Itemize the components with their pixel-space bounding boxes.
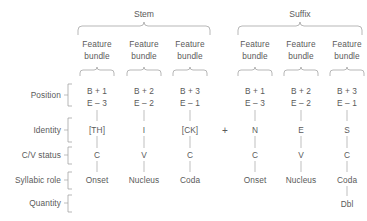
syllabic-role-cell-2: Nucleus [129, 175, 160, 186]
cv-status-cell-1: C [94, 150, 100, 161]
quantity-cell-6: Dbl [341, 199, 354, 210]
identity-cell-1: [TH] [89, 125, 105, 136]
row-label-identity: Identity [33, 125, 61, 135]
feature-bundle-line1: Feature [240, 39, 269, 51]
syllabic-role-cell-6: Coda [337, 175, 357, 186]
bundle-bracket-4 [238, 67, 272, 76]
feature-bundle-header-6: Feature bundle [332, 39, 361, 62]
feature-bundle-header-2: Feature bundle [129, 39, 158, 62]
position-line1: B + 2 [134, 86, 154, 98]
group-label-stem: Stem [134, 9, 154, 19]
rowbracket-syllabic-role [68, 172, 72, 189]
feature-bundle-line2: bundle [332, 51, 361, 63]
feature-bundle-line2: bundle [286, 51, 315, 63]
row-label-position: Position [31, 90, 61, 100]
position-cell-1: B + 1 E – 3 [87, 86, 107, 109]
position-line2: E – 1 [337, 98, 357, 110]
suffix-group-bracket [238, 22, 362, 35]
feature-bundle-line2: bundle [175, 51, 204, 63]
feature-bundle-header-5: Feature bundle [286, 39, 315, 62]
syllabic-role-cell-3: Coda [180, 175, 200, 186]
cv-status-cell-4: C [252, 150, 258, 161]
feature-bundle-line1: Feature [286, 39, 315, 51]
bundle-bracket-1 [80, 67, 114, 76]
rowbracket-position [68, 84, 72, 106]
identity-cell-2: I [143, 125, 145, 136]
feature-bundle-line1: Feature [82, 39, 111, 51]
connector-lines-layer [0, 0, 367, 221]
feature-bundle-line2: bundle [82, 51, 111, 63]
rowbracket-identity [68, 118, 72, 142]
identity-cell-5: E [298, 125, 304, 136]
position-line1: B + 3 [337, 86, 357, 98]
position-line2: E – 2 [134, 98, 154, 110]
feature-bundle-line1: Feature [175, 39, 204, 51]
row-label-quantity: Quantity [29, 198, 61, 208]
cv-status-cell-3: C [187, 150, 193, 161]
position-line1: B + 2 [291, 86, 311, 98]
cv-status-cell-2: V [141, 150, 147, 161]
bundle-bracket-3 [173, 67, 207, 76]
identity-cell-3: [CK] [182, 125, 199, 136]
row-label-cv-status: C/V status [22, 150, 61, 160]
feature-bundle-header-4: Feature bundle [240, 39, 269, 62]
position-line1: B + 1 [87, 86, 107, 98]
syllabic-role-cell-1: Onset [86, 175, 109, 186]
feature-bundle-header-3: Feature bundle [175, 39, 204, 62]
position-cell-5: B + 2 E – 2 [291, 86, 311, 109]
row-label-syllabic-role: Syllabic role [15, 175, 61, 185]
group-label-suffix: Suffix [289, 9, 310, 19]
concatenation-operator: + [222, 125, 228, 136]
position-cell-2: B + 2 E – 2 [134, 86, 154, 109]
position-line2: E – 1 [180, 98, 200, 110]
position-cell-4: B + 1 E – 3 [245, 86, 265, 109]
position-line1: B + 1 [245, 86, 265, 98]
identity-cell-4: N [252, 125, 258, 136]
position-line2: E – 3 [87, 98, 107, 110]
rowbracket-quantity [68, 195, 72, 212]
position-line2: E – 3 [245, 98, 265, 110]
bundle-bracket-6 [330, 67, 364, 76]
cv-status-cell-6: C [344, 150, 350, 161]
stem-group-bracket [78, 22, 210, 35]
position-line2: E – 2 [291, 98, 311, 110]
morphology-tree-diagram: Stem Suffix Position Identity C/V status… [0, 0, 367, 221]
cv-status-cell-5: V [298, 150, 304, 161]
position-line1: B + 3 [180, 86, 200, 98]
bundle-bracket-2 [127, 67, 161, 76]
feature-bundle-header-1: Feature bundle [82, 39, 111, 62]
feature-bundle-line2: bundle [240, 51, 269, 63]
identity-cell-6: S [344, 125, 350, 136]
feature-bundle-line1: Feature [332, 39, 361, 51]
syllabic-role-cell-5: Nucleus [286, 175, 317, 186]
position-cell-3: B + 3 E – 1 [180, 86, 200, 109]
position-cell-6: B + 3 E – 1 [337, 86, 357, 109]
feature-bundle-line2: bundle [129, 51, 158, 63]
rowbracket-cv-status [68, 147, 72, 164]
feature-bundle-line1: Feature [129, 39, 158, 51]
bundle-bracket-5 [284, 67, 318, 76]
syllabic-role-cell-4: Onset [244, 175, 267, 186]
